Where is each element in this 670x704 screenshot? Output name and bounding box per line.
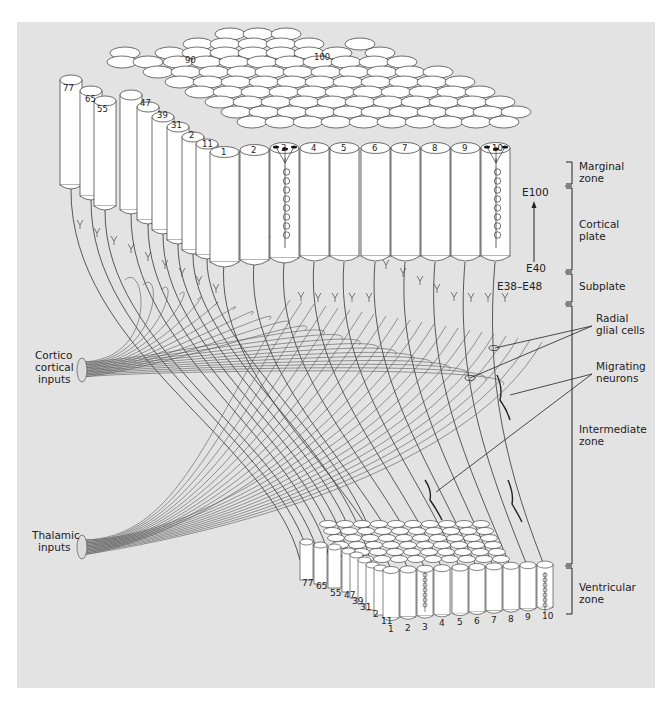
cortex-label-55: 55 — [97, 104, 108, 114]
vz-front-label: 9 — [525, 612, 531, 622]
zone-cortical-line2: plate — [579, 230, 606, 242]
zone-intermediate-line1: Intermediate — [579, 423, 647, 435]
input-bundles — [77, 277, 542, 559]
radial-unit-diagram: 77 65 55 47 39 31 2 11 90 100 1234567891… — [0, 0, 670, 704]
cortex-front-label: 5 — [341, 143, 346, 153]
cortex-label-77: 77 — [63, 83, 74, 93]
cortex-front-label: 4 — [311, 143, 316, 153]
vz-front-label: 5 — [457, 617, 463, 627]
vz-label-2b: 2 — [373, 609, 379, 619]
cortex-label-65: 65 — [85, 94, 96, 104]
cortex-back-column-tops — [107, 28, 531, 128]
cortex-front-label: 1 — [221, 147, 226, 157]
cortex-front-label: 2 — [251, 145, 256, 155]
time-label-e40: E40 — [526, 262, 546, 274]
cortex-front-label: 3 — [281, 143, 286, 153]
cortex-front-label: 8 — [432, 143, 437, 153]
cortex-label-39: 39 — [157, 110, 168, 120]
cortex-front-label: 7 — [402, 143, 407, 153]
zone-cortical-line1: Cortical — [579, 218, 619, 230]
input-cortico-line1: Cortico — [35, 349, 72, 361]
vz-label-31: 31 — [360, 602, 371, 612]
cortex-front-label: 9 — [462, 143, 467, 153]
zone-intermediate-line2: zone — [579, 435, 604, 447]
vz-front-label: 6 — [474, 616, 480, 626]
vz-front-label: 1 — [388, 624, 394, 634]
vz-front-label: 4 — [439, 618, 445, 628]
vz-label-77: 77 — [302, 578, 313, 588]
cortex-label-100: 100 — [314, 52, 330, 62]
cortico-bundle-end — [77, 358, 87, 382]
callout-migrating-line1: Migrating — [596, 360, 646, 372]
vz-front-label: 3 — [422, 622, 428, 632]
input-cortico-line3: inputs — [38, 373, 70, 385]
callout-migrating-line2: neurons — [596, 372, 638, 384]
zone-ventricular-line2: zone — [579, 593, 604, 605]
input-thalamic-line2: inputs — [38, 541, 70, 553]
callouts: Radial glial cells Migrating neurons — [436, 312, 646, 492]
time-label-e100: E100 — [522, 186, 549, 198]
callout-radial-line1: Radial — [596, 312, 628, 324]
cortex-label-11: 11 — [202, 139, 213, 149]
input-thalamic-line1: Thalamic — [31, 529, 80, 541]
zone-ventricular-line1: Ventricular — [579, 581, 637, 593]
input-labels: Cortico cortical inputs Thalamic inputs — [31, 349, 80, 553]
zone-subplate: Subplate — [579, 280, 626, 292]
vz-front-label: 2 — [405, 623, 411, 633]
cortex-label-90: 90 — [185, 55, 196, 65]
zone-brackets — [565, 162, 572, 614]
vz-label-65: 65 — [316, 581, 327, 591]
vz-front-label: 7 — [491, 615, 497, 625]
cortex-label-47: 47 — [140, 98, 151, 108]
cortex-front-label: 10 — [492, 143, 503, 153]
arrow-up-icon — [532, 201, 537, 208]
time-label-subplate: E38–E48 — [497, 280, 542, 292]
cortex-front-label: 6 — [372, 143, 377, 153]
cortex-label-2b: 2 — [189, 130, 194, 140]
vz-front-label: 10 — [542, 611, 554, 621]
zone-marginal-line2: zone — [579, 172, 604, 184]
cortex-label-31: 31 — [171, 120, 182, 130]
input-cortico-line2: cortical — [35, 361, 74, 373]
vz-front-label: 8 — [508, 614, 514, 624]
zone-marginal-line1: Marginal — [579, 160, 624, 172]
vz-label-55: 55 — [330, 588, 341, 598]
callout-radial-line2: glial cells — [596, 324, 645, 336]
